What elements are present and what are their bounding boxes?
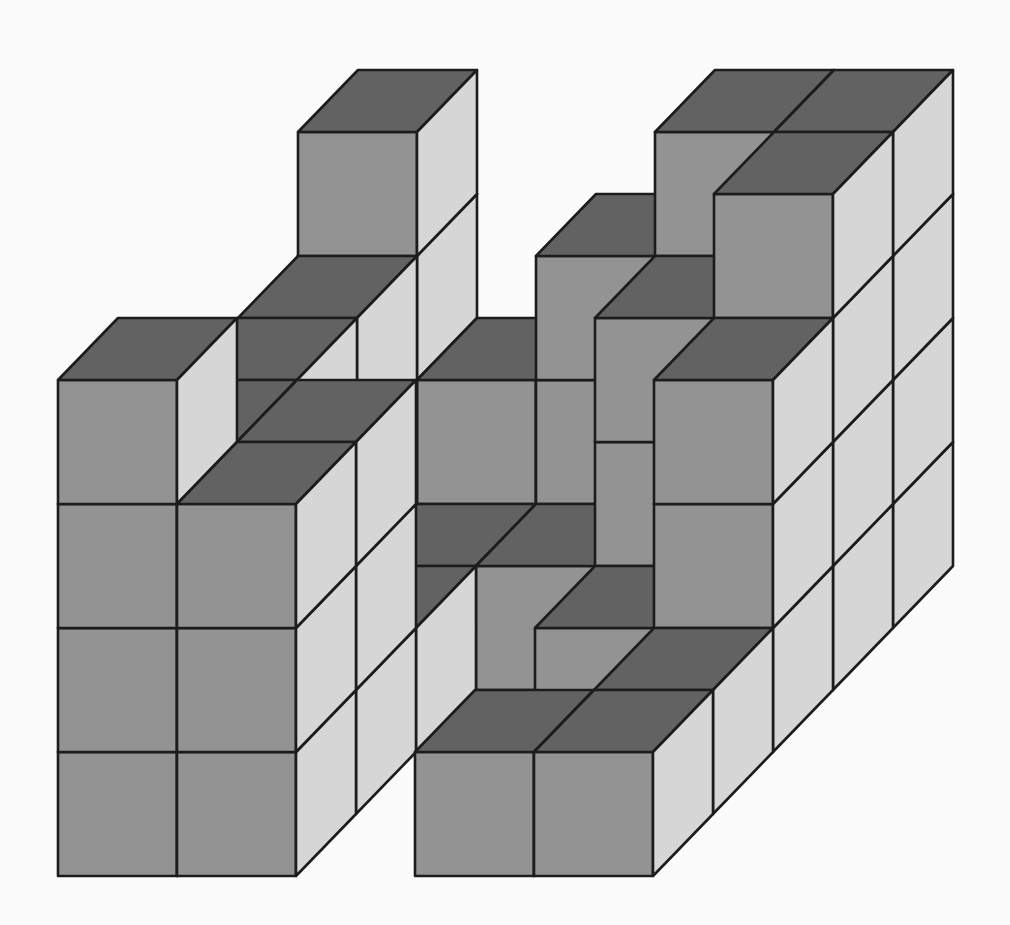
cube-front-face xyxy=(177,504,296,628)
cube-front-face xyxy=(58,380,177,504)
cube-front-face xyxy=(177,628,296,752)
cube-front-face xyxy=(654,504,773,628)
cube-front-face xyxy=(714,194,833,318)
cube-front-face xyxy=(298,132,417,256)
cube-front-face xyxy=(58,752,177,876)
cube-front-face xyxy=(534,752,653,876)
cube-front-face xyxy=(417,380,536,504)
cube-front-face xyxy=(58,628,177,752)
cube-stack-diagram xyxy=(0,0,1010,925)
cube-front-face xyxy=(654,380,773,504)
cube-front-face xyxy=(177,752,296,876)
cube-front-face xyxy=(58,504,177,628)
cube-figure xyxy=(0,0,1010,925)
cube-front-face xyxy=(415,752,534,876)
